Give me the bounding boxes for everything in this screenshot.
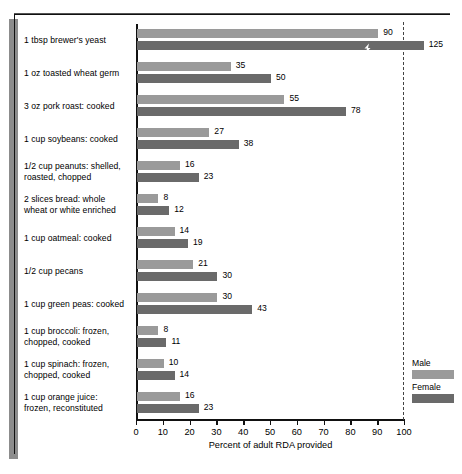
bar-value-label: 14 xyxy=(180,225,190,236)
bar-female xyxy=(137,272,217,281)
bar-value-label: 23 xyxy=(204,171,214,182)
bar-row-label: 1 cup orange juice: frozen, reconstitute… xyxy=(24,392,132,414)
bar-value-label: 19 xyxy=(193,237,203,248)
x-tick xyxy=(270,419,271,425)
legend-item-male: Male xyxy=(412,358,458,379)
bar-row-label: 1 cup green peas: cooked xyxy=(24,299,132,310)
bar-value-label: 90 xyxy=(383,27,393,38)
bar-value-label: 35 xyxy=(236,60,246,71)
bar-group: 3550 xyxy=(137,57,462,90)
bar-value-label: 43 xyxy=(257,303,267,314)
bar-value-label: 38 xyxy=(244,138,254,149)
bar-group: 2130 xyxy=(137,255,462,288)
bar-row: 1 oz toasted wheat germ3550 xyxy=(0,57,462,90)
bar-value-label: 8 xyxy=(163,324,168,335)
x-tick xyxy=(324,419,325,425)
x-tick-label: 10 xyxy=(150,427,176,438)
bar-male xyxy=(137,326,158,335)
bar-rows-container: 1 tbsp brewer's yeast901251 oz toasted w… xyxy=(0,24,462,420)
x-tick-label: 90 xyxy=(364,427,390,438)
bar-group: 811 xyxy=(137,321,462,354)
bar-female xyxy=(137,41,424,50)
bar-group: 1419 xyxy=(137,222,462,255)
x-tick xyxy=(190,419,191,425)
bar-value-label: 30 xyxy=(222,291,232,302)
bar-value-label: 27 xyxy=(214,126,224,137)
bar-value-label: 50 xyxy=(276,72,286,83)
bar-row-label: 1 cup oatmeal: cooked xyxy=(24,233,132,244)
legend-swatch-female xyxy=(412,394,454,403)
bar-row: 1 cup broccoli: frozen, chopped, cooked8… xyxy=(0,321,462,354)
bar-chart-plot: 1 tbsp brewer's yeast901251 oz toasted w… xyxy=(0,0,462,474)
bar-female xyxy=(137,140,239,149)
bar-row-label: 1 oz toasted wheat germ xyxy=(24,68,132,79)
bar-male xyxy=(137,359,164,368)
bar-female xyxy=(137,404,199,413)
bar-row: 2 slices bread: whole wheat or white enr… xyxy=(0,189,462,222)
bar-group: 90125 xyxy=(137,24,462,57)
bar-value-label: 78 xyxy=(351,105,361,116)
bar-male xyxy=(137,62,231,71)
bar-value-label: 10 xyxy=(169,357,179,368)
x-tick-label: 0 xyxy=(123,427,149,438)
x-tick xyxy=(136,419,137,425)
bar-value-label: 23 xyxy=(204,402,214,413)
bar-female xyxy=(137,107,346,116)
x-tick-label: 30 xyxy=(203,427,229,438)
x-tick xyxy=(297,419,298,425)
bar-female xyxy=(137,206,169,215)
bar-value-label: 14 xyxy=(180,369,190,380)
x-tick xyxy=(243,419,244,425)
bar-value-label: 11 xyxy=(171,336,180,347)
bar-row: 1 tbsp brewer's yeast90125 xyxy=(0,24,462,57)
legend-swatch-male xyxy=(412,370,454,379)
x-tick-label: 60 xyxy=(284,427,310,438)
bar-group: 1623 xyxy=(137,156,462,189)
bar-female xyxy=(137,74,271,83)
chart-legend: Male Female xyxy=(412,358,458,406)
bar-row: 1 cup oatmeal: cooked1419 xyxy=(0,222,462,255)
bar-value-label: 21 xyxy=(198,258,208,269)
bar-row: 1 cup spinach: frozen, chopped, cooked10… xyxy=(0,354,462,387)
bar-male xyxy=(137,128,209,137)
bar-male xyxy=(137,293,217,302)
bar-row: 1 cup orange juice: frozen, reconstitute… xyxy=(0,387,462,420)
x-tick-label: 40 xyxy=(230,427,256,438)
bar-row: 3 oz pork roast: cooked5578 xyxy=(0,90,462,123)
bar-male xyxy=(137,392,180,401)
bar-row-label: 1 tbsp brewer's yeast xyxy=(24,35,132,46)
bar-value-label: 125 xyxy=(429,39,443,50)
bar-row-label: 3 oz pork roast: cooked xyxy=(24,101,132,112)
bar-row-label: 1/2 cup peanuts: shelled, roasted, chopp… xyxy=(24,161,132,183)
bar-female xyxy=(137,173,199,182)
bar-row-label: 1 cup broccoli: frozen, chopped, cooked xyxy=(24,326,132,348)
bar-male xyxy=(137,260,193,269)
legend-label-male: Male xyxy=(412,358,458,369)
x-tick xyxy=(404,419,405,425)
bar-male xyxy=(137,29,378,38)
x-tick xyxy=(377,419,378,425)
legend-item-female: Female xyxy=(412,382,458,403)
bar-male xyxy=(137,161,180,170)
x-tick-label: 20 xyxy=(177,427,203,438)
bar-female xyxy=(137,239,188,248)
x-tick-label: 80 xyxy=(337,427,363,438)
bar-group: 2738 xyxy=(137,123,462,156)
x-tick-label: 100 xyxy=(391,427,417,438)
bar-row-label: 2 slices bread: whole wheat or white enr… xyxy=(24,194,132,216)
bar-row-label: 1 cup soybeans: cooked xyxy=(24,134,132,145)
bar-row-label: 1/2 cup pecans xyxy=(24,266,132,277)
bar-group: 3043 xyxy=(137,288,462,321)
bar-value-label: 30 xyxy=(222,270,232,281)
bar-row: 1 cup soybeans: cooked2738 xyxy=(0,123,462,156)
x-tick xyxy=(216,419,217,425)
bar-value-label: 16 xyxy=(185,390,195,401)
bar-group: 5578 xyxy=(137,90,462,123)
bar-value-label: 8 xyxy=(163,192,168,203)
legend-label-female: Female xyxy=(412,382,458,393)
bar-value-label: 16 xyxy=(185,159,195,170)
bar-male xyxy=(137,227,175,236)
x-tick xyxy=(163,419,164,425)
bar-row: 1 cup green peas: cooked3043 xyxy=(0,288,462,321)
x-tick-label: 50 xyxy=(257,427,283,438)
